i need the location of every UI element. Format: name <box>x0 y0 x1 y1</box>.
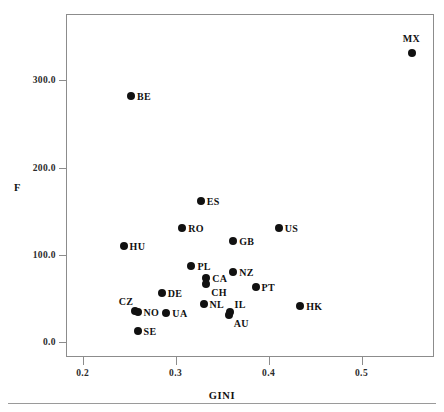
data-point-de[interactable] <box>158 289 166 297</box>
data-point-label-us: US <box>285 222 298 233</box>
data-point-label-ro: RO <box>188 222 204 233</box>
data-point-label-de: DE <box>168 288 183 299</box>
data-point-label-gb: GB <box>239 235 254 246</box>
data-point-label-pl: PL <box>197 261 210 272</box>
data-point-label-no: NO <box>144 307 160 318</box>
data-point-ro[interactable] <box>178 224 186 232</box>
x-tick-label: 0.2 <box>76 368 89 378</box>
data-point-label-ua: UA <box>172 308 187 319</box>
data-point-us[interactable] <box>275 224 283 232</box>
x-tick-mark <box>83 357 84 365</box>
data-point-label-se: SE <box>144 325 157 336</box>
data-point-ua[interactable] <box>162 309 170 317</box>
data-point-pl[interactable] <box>187 262 195 270</box>
data-point-label-es: ES <box>207 195 220 206</box>
data-point-hk[interactable] <box>296 302 304 310</box>
data-point-label-nl: NL <box>210 298 225 309</box>
x-tick-mark <box>269 357 270 365</box>
data-point-no[interactable] <box>134 308 142 316</box>
y-tick-label: 100.0 <box>33 250 56 260</box>
plot-area: 0.0100.0200.0300.0 0.20.30.40.5 MXBEESRO… <box>66 14 434 357</box>
data-point-label-be: BE <box>137 91 151 102</box>
data-point-hu[interactable] <box>120 242 128 250</box>
footer-divider <box>8 403 436 404</box>
scatter-plot-figure: 0.0100.0200.0300.0 0.20.30.40.5 MXBEESRO… <box>0 0 444 412</box>
data-point-se[interactable] <box>134 327 142 335</box>
data-point-ch[interactable] <box>202 280 210 288</box>
x-tick-mark <box>176 357 177 365</box>
y-axis-title: F <box>14 182 20 193</box>
data-point-label-hu: HU <box>130 241 146 252</box>
data-point-be[interactable] <box>127 92 135 100</box>
x-axis-title: GINI <box>0 390 444 401</box>
y-tick-mark <box>59 168 66 169</box>
data-point-label-nz: NZ <box>239 267 254 278</box>
x-tick-mark <box>362 357 363 365</box>
y-tick-mark <box>59 342 66 343</box>
data-point-nl[interactable] <box>200 300 208 308</box>
data-point-label-ca: CA <box>212 273 227 284</box>
y-tick-mark <box>59 80 66 81</box>
data-point-label-cz: CZ <box>119 295 134 306</box>
data-point-nz[interactable] <box>229 268 237 276</box>
data-point-es[interactable] <box>197 197 205 205</box>
data-point-au[interactable] <box>225 311 233 319</box>
data-point-pt[interactable] <box>252 283 260 291</box>
y-tick-mark <box>59 255 66 256</box>
y-tick-label: 0.0 <box>43 337 56 347</box>
y-tick-label: 300.0 <box>33 75 56 85</box>
data-point-label-hk: HK <box>306 301 322 312</box>
x-tick-label: 0.4 <box>262 368 275 378</box>
data-point-label-ch: CH <box>211 286 227 297</box>
data-point-gb[interactable] <box>229 237 237 245</box>
data-point-label-au: AU <box>234 318 249 329</box>
x-tick-label: 0.3 <box>169 368 182 378</box>
y-tick-label: 200.0 <box>33 163 56 173</box>
data-point-label-pt: PT <box>262 282 275 293</box>
x-tick-label: 0.5 <box>355 368 368 378</box>
data-point-mx[interactable] <box>408 49 416 57</box>
data-point-label-mx: MX <box>403 33 420 44</box>
data-point-label-il: IL <box>235 298 246 309</box>
